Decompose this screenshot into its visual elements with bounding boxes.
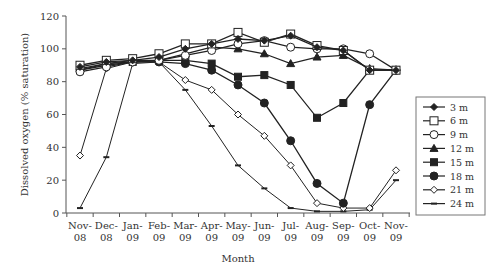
diamond-open-marker [314,200,321,207]
x-tick-label: Apr- [200,220,223,231]
square-filled-marker [287,81,294,88]
x-tick-label: 09 [337,232,350,243]
x-tick-label: 09 [126,232,139,243]
x-tick-label: Feb- [148,220,170,231]
x-tick-label: Nov- [384,220,408,231]
x-tick-label: Sep- [332,220,355,231]
x-tick-label: Jan- [122,220,143,231]
series-group [76,28,400,211]
x-tick-label: 09 [258,232,271,243]
legend-label: 21 m [450,184,474,195]
square-filled-marker [261,72,268,79]
x-tick-label: 09 [284,232,297,243]
diamond-open-marker [182,77,189,84]
dissolved-oxygen-chart: 020406080100120Nov-08Dec-08Jan-09Feb-09M… [0,0,491,269]
x-tick-label: 09 [232,232,245,243]
square-open-marker [430,117,438,125]
legend-label: 24 m [450,198,474,209]
circle-open-marker [366,50,374,58]
x-tick-label: Aug- [304,220,328,231]
circle-open-marker [287,43,295,51]
square-filled-marker [431,159,438,166]
circle-open-marker [430,131,438,139]
circle-filled-marker [366,101,374,109]
series-3m [77,32,400,73]
legend: 3 m6 m9 m12 m15 m18 m21 m24 m [416,97,485,215]
x-tick-label: 09 [179,232,192,243]
x-tick-label: 09 [311,232,324,243]
legend-label: 18 m [450,171,474,182]
x-tick-label: 08 [74,232,87,243]
square-filled-marker [235,73,242,80]
y-tick-label: 100 [40,43,59,54]
x-tick-label: 09 [205,232,218,243]
y-tick-label: 60 [46,109,59,120]
x-tick-label: Mar- [173,220,197,231]
legend-label: 9 m [450,129,468,140]
x-tick-label: 09 [363,232,376,243]
y-tick-label: 0 [53,208,59,219]
square-filled-marker [208,60,215,67]
y-tick-label: 120 [40,11,59,22]
x-tick-label: 09 [153,232,166,243]
diamond-open-marker [77,152,84,159]
circle-filled-marker [339,199,347,207]
x-tick-label: 08 [100,232,113,243]
legend-label: 3 m [450,102,468,113]
diamond-open-marker [393,167,400,174]
square-filled-marker [314,114,321,121]
circle-filled-marker [234,81,242,89]
circle-filled-marker [260,99,268,107]
x-tick-label: May- [225,220,250,231]
x-tick-label: Jun- [253,220,274,231]
y-axis-title: Dissolved oxygen (% saturation) [19,33,30,197]
circle-filled-marker [430,172,438,180]
x-tick-label: 09 [390,232,403,243]
circle-filled-marker [287,137,295,145]
legend-label: 12 m [450,143,474,154]
x-tick-label: Dec- [95,220,118,231]
x-tick-label: Nov- [68,220,92,231]
x-tick-label: Jul- [281,220,299,231]
x-axis-title: Month [221,253,255,264]
square-filled-marker [340,100,347,107]
x-tick-label: Oct- [359,220,380,231]
legend-label: 6 m [450,115,468,126]
y-tick-label: 20 [46,175,59,186]
y-tick-label: 80 [46,76,59,87]
y-tick-label: 40 [46,142,59,153]
circle-filled-marker [313,179,321,187]
legend-label: 15 m [450,157,474,168]
